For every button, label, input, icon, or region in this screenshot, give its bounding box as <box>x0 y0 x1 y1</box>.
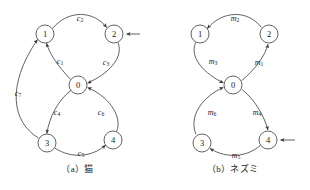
node-a-0-label: 0 <box>76 80 80 90</box>
edge-label-m1: m1 <box>255 58 264 68</box>
edge-label-c3: c3 <box>103 58 110 68</box>
node-b-2-label: 2 <box>267 29 271 39</box>
caption-panel-a: （a）猫 <box>0 162 155 175</box>
node-a-1-label: 1 <box>43 29 47 39</box>
state-diagram-b: 0 1 2 3 4 m1 m2 m3 m4 m5 m6 <box>155 0 310 165</box>
state-diagram-a: 0 1 2 3 4 c1 c2 c3 c4 c5 c6 <box>0 0 155 165</box>
diagram-panel-a: 0 1 2 3 4 c1 c2 c3 c4 c5 c6 <box>0 0 155 190</box>
edge-label-m5: m5 <box>232 151 241 161</box>
edge-label-m6: m6 <box>208 108 217 118</box>
figure-two-state-diagrams: 0 1 2 3 4 c1 c2 c3 c4 c5 c6 <box>0 0 310 190</box>
node-b-3-label: 3 <box>200 138 204 148</box>
node-b-1-label: 1 <box>198 29 202 39</box>
diagram-panel-b: 0 1 2 3 4 m1 m2 m3 m4 m5 m6 <box>155 0 310 190</box>
edge-c4-to-c0-path <box>88 88 118 132</box>
edge-label-m4: m4 <box>253 108 262 118</box>
caption-panel-b: （b）ネズミ <box>155 162 310 175</box>
edge-label-c5: c5 <box>78 149 85 159</box>
edge-label-c1: c1 <box>57 57 64 67</box>
node-a-3-label: 3 <box>45 138 49 148</box>
edge-label-c2: c2 <box>77 14 84 24</box>
edge-label-m3: m3 <box>209 57 218 67</box>
edge-label-c6: c6 <box>98 108 105 118</box>
edge-c3-to-c1-path <box>16 40 38 138</box>
node-a-2-label: 2 <box>112 29 116 39</box>
edge-label-c4: c4 <box>54 108 61 118</box>
edge-label-c7: c7 <box>15 89 22 99</box>
node-b-0-label: 0 <box>231 80 235 90</box>
